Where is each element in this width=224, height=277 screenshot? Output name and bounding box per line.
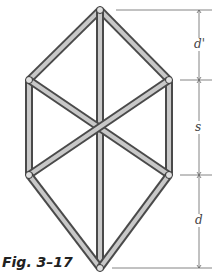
bars: [29, 10, 169, 268]
dimension-label-s: s: [194, 121, 202, 134]
joint-pin-lower_left: [26, 172, 33, 179]
joint-pin-upper_left: [26, 77, 33, 84]
bar-highlight: [100, 10, 169, 80]
joint-pin-bottom: [97, 265, 104, 272]
joint-pin-upper_right: [166, 77, 173, 84]
joint-pin-top: [97, 7, 104, 14]
linkage-diagram: [0, 0, 224, 277]
bar-highlight: [29, 10, 100, 80]
bar-highlight: [100, 175, 169, 268]
joint-pin-lower_right: [166, 172, 173, 179]
dimension-label-d-prime: d': [193, 38, 206, 51]
figure-caption: Fig. 3–17: [2, 254, 73, 270]
dimension-label-d: d: [194, 214, 204, 227]
